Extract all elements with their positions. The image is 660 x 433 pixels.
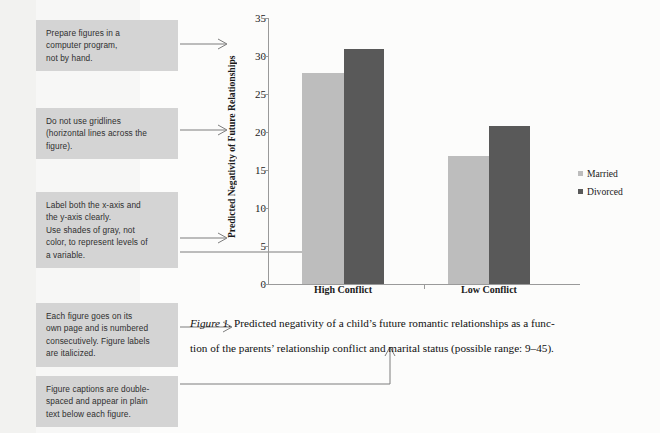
- figure-caption-line-1: Predicted negativity of a child’s future…: [231, 317, 554, 329]
- figure-caption-line-2: tion of the parents’ relationship confli…: [190, 342, 554, 354]
- bar-chart: Predicted Negativity of Future Relations…: [0, 0, 660, 433]
- figure-page: Prepare figures in a computer program, n…: [0, 0, 660, 433]
- legend-label-married: Married: [587, 168, 618, 179]
- figure-label: Figure 1.: [190, 317, 231, 329]
- legend-item-divorced: Divorced: [578, 186, 623, 197]
- legend-label-divorced: Divorced: [587, 186, 623, 197]
- bar-married-high-conflict: [302, 73, 344, 284]
- bar-divorced-high-conflict: [344, 49, 384, 284]
- bar-divorced-low-conflict: [489, 126, 530, 284]
- chart-legend: Married Divorced: [578, 168, 623, 204]
- legend-item-married: Married: [578, 168, 623, 179]
- x-tick-label-low-conflict: Low Conflict: [429, 284, 549, 295]
- figure-caption: Figure 1. Predicted negativity of a chil…: [190, 311, 642, 361]
- bar-married-low-conflict: [448, 156, 489, 284]
- x-tick-label-high-conflict: High Conflict: [283, 284, 403, 295]
- legend-swatch-divorced-icon: [578, 189, 583, 194]
- legend-swatch-married-icon: [578, 171, 583, 176]
